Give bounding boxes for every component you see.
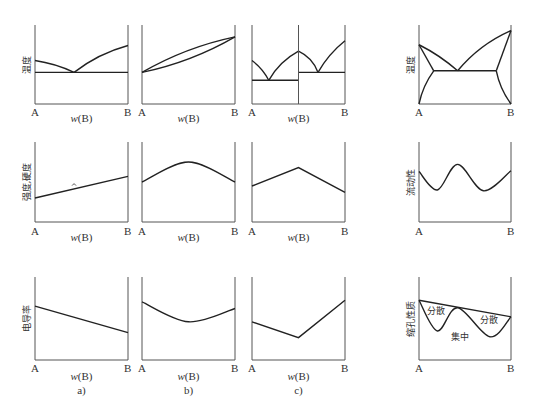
series-strength <box>142 162 235 182</box>
caption-a: a) <box>77 384 86 397</box>
end-label-b: B <box>231 362 238 374</box>
end-label-a: A <box>31 225 39 237</box>
series-liquidus-2 <box>269 51 299 80</box>
series-strength <box>35 176 128 198</box>
series-liquidus-4 <box>318 41 345 73</box>
end-label-a: A <box>248 225 256 237</box>
x-axis-label: w(B) <box>287 231 309 244</box>
end-label-a: A <box>138 362 146 374</box>
series-solidus <box>142 37 235 73</box>
end-label-a: A <box>138 225 146 237</box>
end-label-b: B <box>341 225 348 237</box>
caption-b: b) <box>184 384 194 397</box>
x-axis-label: w(B) <box>177 370 199 383</box>
panel-row3-d: AB缩孔性质分散分散集中 <box>405 277 515 374</box>
end-label-a: A <box>31 362 39 374</box>
series-liquidus-right <box>74 46 128 73</box>
series-fluidity <box>419 164 511 190</box>
series-solvus-right <box>496 71 511 104</box>
panel-row2-a: ABw(B)强度,硬度 <box>21 142 132 244</box>
end-label-b: B <box>124 106 131 118</box>
caption-c: c) <box>294 384 303 397</box>
panel-row3-c: ABw(B)c) <box>248 277 348 397</box>
tick-mark-icon <box>72 184 76 186</box>
end-label-b: B <box>231 106 238 118</box>
series-liquidus-3 <box>299 51 319 72</box>
panel-row3-b: ABw(B)b) <box>138 277 238 397</box>
end-label-b: B <box>507 225 514 237</box>
annotation-dispersed-2: 分散 <box>480 314 498 325</box>
end-label-b: B <box>124 362 131 374</box>
end-label-a: A <box>415 106 423 118</box>
series-conductivity <box>252 300 345 337</box>
series-solvus-left <box>419 71 434 104</box>
end-label-a: A <box>138 106 146 118</box>
x-axis-label: w(B) <box>70 231 92 244</box>
panel-row3-a: ABw(B)电导率a) <box>21 277 132 397</box>
panel-row2-c: ABw(B) <box>248 142 348 244</box>
end-label-b: B <box>124 225 131 237</box>
x-axis-label: w(B) <box>177 231 199 244</box>
y-axis-label: 电导率 <box>21 305 32 332</box>
series-strength <box>252 168 345 193</box>
y-axis-label: 缩孔性质 <box>405 301 416 337</box>
x-axis-label: w(B) <box>70 112 92 125</box>
x-axis-label: w(B) <box>177 112 199 125</box>
end-label-a: A <box>415 362 423 374</box>
series-liquidus <box>142 37 235 73</box>
y-axis-label: 温度 <box>21 56 32 74</box>
annotation-concentrated: 集中 <box>451 331 469 342</box>
end-label-b: B <box>507 362 514 374</box>
panel-row1-c: ABw(B) <box>248 25 348 125</box>
x-axis-label: w(B) <box>287 112 309 125</box>
end-label-a: A <box>248 106 256 118</box>
series-liquidus-1 <box>252 61 269 81</box>
x-axis-label: w(B) <box>287 370 309 383</box>
y-axis-label: 流动性 <box>405 169 416 196</box>
panel-row1-a: ABw(B)温度 <box>21 25 132 125</box>
x-axis-label: w(B) <box>70 370 92 383</box>
end-label-a: A <box>31 106 39 118</box>
end-label-b: B <box>507 106 514 118</box>
y-axis-label: 强度,硬度 <box>21 163 32 202</box>
end-label-b: B <box>231 225 238 237</box>
end-label-a: A <box>248 362 256 374</box>
panel-row1-d: AB温度 <box>405 25 515 118</box>
end-label-b: B <box>341 362 348 374</box>
panel-row2-d: AB流动性 <box>405 142 515 237</box>
series-conductivity <box>142 302 235 322</box>
series-liquidus-left <box>35 61 74 73</box>
panel-row1-b: ABw(B) <box>138 25 238 125</box>
series-liquidus-left <box>419 45 458 71</box>
y-axis-label: 温度 <box>405 56 416 74</box>
panel-row2-b: ABw(B) <box>138 142 238 244</box>
series-conductivity <box>35 306 128 333</box>
end-label-a: A <box>415 225 423 237</box>
figure-canvas: ABw(B)温度ABw(B)ABw(B)AB温度ABw(B)强度,硬度ABw(B… <box>0 0 536 410</box>
annotation-dispersed-1: 分散 <box>427 305 445 316</box>
end-label-b: B <box>341 106 348 118</box>
